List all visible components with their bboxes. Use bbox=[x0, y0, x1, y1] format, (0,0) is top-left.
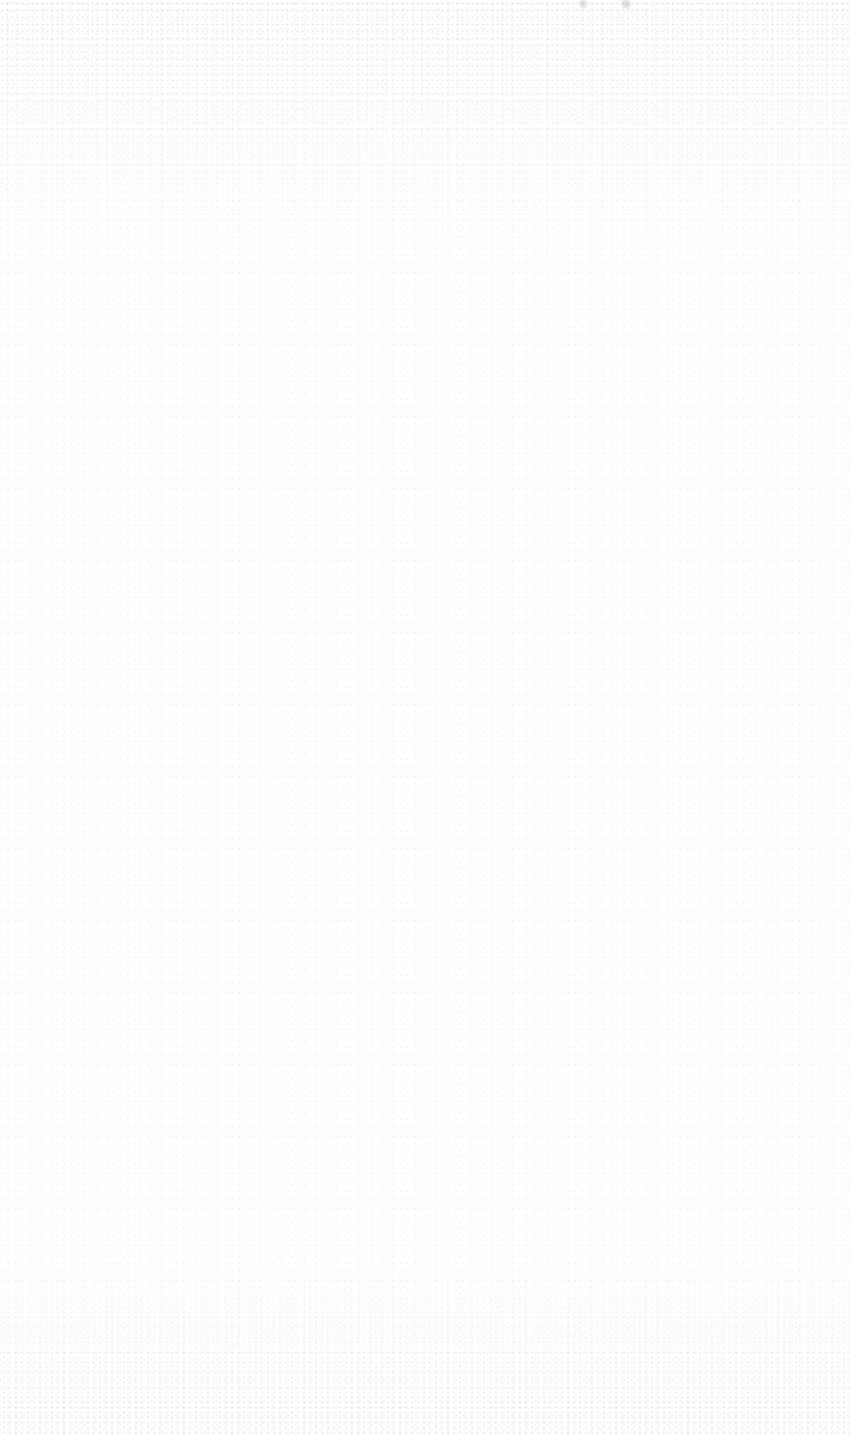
scan-noise-top bbox=[0, 0, 850, 260]
scan-noise-bottom bbox=[0, 1255, 850, 1435]
scan-artifact-mark bbox=[580, 0, 586, 8]
blank-scanned-page bbox=[0, 0, 850, 1435]
scan-artifact-mark bbox=[622, 0, 630, 8]
